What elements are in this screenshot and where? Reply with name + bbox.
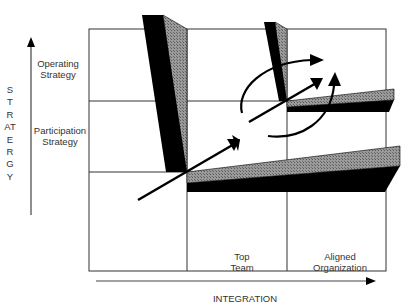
grid	[89, 29, 386, 271]
y-axis-label: STRATERGY	[4, 84, 16, 183]
column-label-line: Team	[222, 262, 262, 273]
vertical-wedge-small	[264, 22, 287, 101]
row-label-line: Participation	[30, 125, 90, 136]
horizontal-wedge-small	[287, 89, 394, 112]
column-label-line: Aligned	[300, 251, 380, 262]
column-label-line: Top	[222, 251, 262, 262]
column-label-aligned-organization: Aligned Organization	[300, 251, 380, 273]
column-label-line: Organization	[300, 262, 380, 273]
row-label-participation: Participation Strategy	[30, 125, 90, 147]
x-axis-arrow	[96, 277, 376, 285]
x-axis-label: INTEGRATION	[200, 293, 290, 304]
row-label-line: Strategy	[30, 69, 86, 80]
row-label-line: Operating	[30, 58, 86, 69]
row-label-line: Strategy	[30, 136, 90, 147]
vertical-wedge-large	[142, 15, 187, 172]
row-label-operating: Operating Strategy	[30, 58, 86, 80]
rotation-arrowhead-top	[310, 54, 324, 66]
column-label-top-team: Top Team	[222, 251, 262, 273]
rotation-arrowhead-right	[328, 72, 341, 86]
